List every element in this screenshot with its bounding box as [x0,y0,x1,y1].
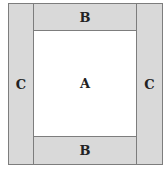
label-c-right: C [144,77,154,92]
region-top-b: B [33,3,137,31]
region-bottom-b: B [33,136,137,165]
label-a: A [80,76,90,91]
label-c-left: C [16,77,26,92]
region-left-c: C [8,3,34,165]
label-b-top: B [80,10,91,25]
region-right-c: C [136,3,163,165]
region-center-a: A [33,30,137,137]
label-b-bottom: B [80,143,91,158]
